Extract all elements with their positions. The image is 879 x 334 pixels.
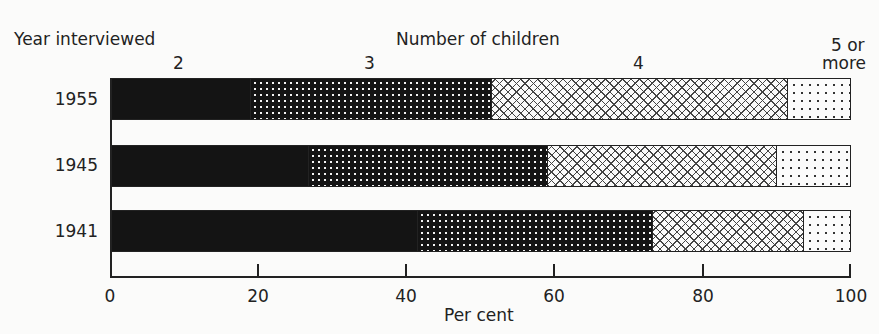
segment-4-children [547,146,776,186]
segment-4-children [491,79,787,119]
x-tick-label-100: 100 [835,286,867,306]
legend-title: Number of children [396,29,560,49]
y-axis-title: Year interviewed [14,29,155,49]
legend-label-3: 3 [364,53,375,73]
segment-5-or-more [776,146,850,186]
legend-label-2: 2 [173,53,184,73]
x-tick-label-80: 80 [692,286,714,306]
x-axis-title: Per cent [444,305,514,325]
segment-2-children [111,79,250,119]
segment-2-children [111,146,308,186]
bar-1945 [110,145,851,187]
segment-2-children [111,211,417,251]
segment-5-or-more [803,211,850,251]
x-tick-label-40: 40 [395,286,417,306]
x-tick-100 [849,264,851,277]
segment-4-children [652,211,803,251]
legend-label-4: 4 [633,53,644,73]
legend-label-5-line2: more [822,53,866,73]
x-tick-label-20: 20 [247,286,269,306]
y-axis-line [110,78,112,278]
x-tick-60 [553,264,555,277]
bar-1941 [110,210,851,252]
x-tick-40 [405,264,407,277]
row-label-1945: 1945 [8,155,98,175]
legend-label-5-line1: 5 or [831,35,865,55]
x-tick-label-60: 60 [543,286,565,306]
x-tick-80 [702,264,704,277]
x-axis-line [110,276,851,278]
segment-3-children [417,211,652,251]
row-label-1941: 1941 [8,221,98,241]
segment-3-children [308,146,547,186]
row-label-1955: 1955 [8,89,98,109]
segment-5-or-more [787,79,850,119]
segment-3-children [250,79,491,119]
bar-1955 [110,78,851,120]
x-tick-20 [257,264,259,277]
x-tick-label-0: 0 [105,286,116,306]
